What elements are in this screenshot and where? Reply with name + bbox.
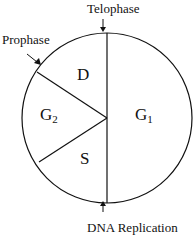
prophase-label: Prophase	[2, 33, 50, 46]
telophase-label: Telophase	[87, 2, 140, 15]
telophase-arrow	[100, 19, 106, 32]
prophase-arrow	[27, 54, 41, 65]
segment-s-label: S	[80, 150, 89, 167]
segment-d-label: D	[77, 66, 89, 83]
segment-g1-label: G1	[135, 106, 153, 125]
dna-replication-label: DNA Replication	[87, 221, 178, 234]
segment-g2-label: G2	[40, 106, 58, 125]
